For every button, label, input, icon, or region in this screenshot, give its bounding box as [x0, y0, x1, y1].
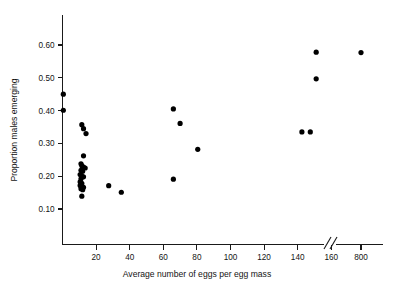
plot-canvas: 0.100.200.300.400.500.60 204060801001201…	[0, 0, 394, 291]
data-point	[195, 147, 200, 152]
data-point	[171, 177, 176, 182]
x-tick-label: 140	[291, 253, 305, 262]
y-axis-label: Proportion males emerging	[9, 78, 19, 181]
y-tick-label: 0.10	[39, 205, 55, 214]
scatter-plot-figure: 0.100.200.300.400.500.60 204060801001201…	[0, 0, 394, 291]
data-point	[79, 194, 84, 199]
data-point	[358, 50, 363, 55]
data-point	[81, 153, 86, 158]
x-tick-label: 800	[354, 253, 368, 262]
y-tick-label: 0.30	[39, 139, 55, 148]
data-point	[83, 131, 88, 136]
data-point	[299, 129, 304, 134]
data-point	[80, 187, 85, 192]
data-point	[308, 129, 313, 134]
data-point	[61, 92, 66, 97]
data-point	[106, 183, 111, 188]
y-tick-label: 0.60	[39, 41, 55, 50]
y-tick-label: 0.50	[39, 74, 55, 83]
x-tick-label: 160	[324, 253, 338, 262]
x-axis-label: Average number of eggs per egg mass	[123, 269, 271, 279]
data-point	[314, 76, 319, 81]
y-tick-label: 0.40	[39, 107, 55, 116]
x-tick-label: 100	[224, 253, 238, 262]
data-point	[61, 108, 66, 113]
x-tick-label: 40	[125, 253, 135, 262]
data-point	[314, 50, 319, 55]
data-point	[178, 121, 183, 126]
x-tick-label: 80	[192, 253, 202, 262]
data-point	[81, 126, 86, 131]
y-tick-label: 0.20	[39, 172, 55, 181]
data-point	[119, 190, 124, 195]
x-tick-label: 60	[159, 253, 169, 262]
data-point	[171, 106, 176, 111]
x-tick-label: 120	[257, 253, 271, 262]
x-tick-label: 20	[92, 253, 102, 262]
